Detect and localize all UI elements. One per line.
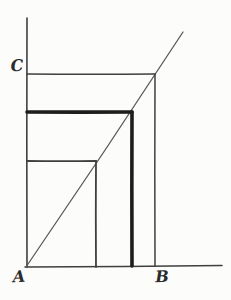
x-axis xyxy=(25,266,222,268)
label-b: B xyxy=(155,269,169,285)
figure-canvas xyxy=(0,0,231,300)
label-c: C xyxy=(10,58,24,75)
label-a: A xyxy=(12,269,25,286)
figure-page: C A B xyxy=(0,0,231,300)
diagonal-line xyxy=(26,32,183,267)
